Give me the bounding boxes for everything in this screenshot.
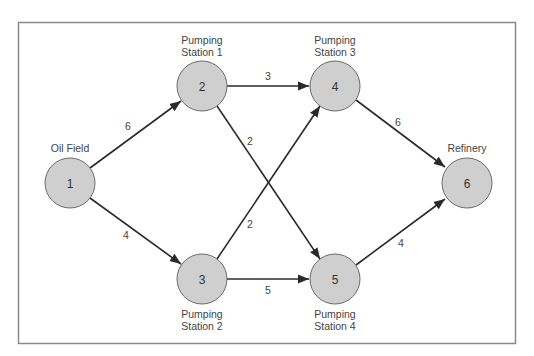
node-id: 2 [199, 80, 206, 94]
node-label-line1: Pumping [181, 308, 223, 320]
node-id: 1 [67, 177, 74, 191]
node-label-line2: Station 3 [314, 46, 356, 58]
pipeline-network-diagram: 6 4 3 2 2 5 6 4 1 Oil Field 2 Pumping St… [0, 0, 534, 356]
edge-weight-5-6: 4 [398, 237, 404, 249]
edge-weight-3-4: 2 [247, 218, 253, 230]
node-oil-field: 1 Oil Field [45, 142, 95, 208]
edge-1-2 [90, 101, 181, 168]
node-pumping-station-3: 4 Pumping Station 3 [310, 34, 360, 111]
edge-1-3 [90, 198, 181, 264]
node-pumping-station-2: 3 Pumping Station 2 [177, 254, 227, 332]
node-refinery: 6 Refinery [442, 142, 492, 208]
edge-4-6 [356, 100, 445, 167]
node-label-line2: Station 4 [314, 320, 356, 332]
edge-weight-3-5: 5 [265, 284, 271, 296]
node-label-line1: Pumping [314, 34, 356, 46]
edges [90, 86, 445, 279]
node-id: 4 [332, 80, 339, 94]
edge-weight-1-2: 6 [125, 120, 131, 132]
edge-weight-2-4: 3 [265, 70, 271, 82]
node-id: 6 [464, 177, 471, 191]
node-pumping-station-4: 5 Pumping Station 4 [310, 254, 360, 332]
node-label-line2: Station 2 [181, 320, 223, 332]
edge-5-6 [356, 199, 445, 265]
node-pumping-station-1: 2 Pumping Station 1 [177, 34, 227, 111]
edge-weight-4-6: 6 [395, 116, 401, 128]
node-id: 5 [332, 273, 339, 287]
node-label-line1: Pumping [314, 308, 356, 320]
node-label-line2: Station 1 [181, 46, 223, 58]
node-label-line1: Pumping [181, 34, 223, 46]
edge-weight-1-3: 4 [123, 229, 129, 241]
node-label: Oil Field [51, 142, 90, 154]
edge-weight-2-5: 2 [247, 135, 253, 147]
node-label: Refinery [447, 142, 487, 154]
node-id: 3 [199, 273, 206, 287]
